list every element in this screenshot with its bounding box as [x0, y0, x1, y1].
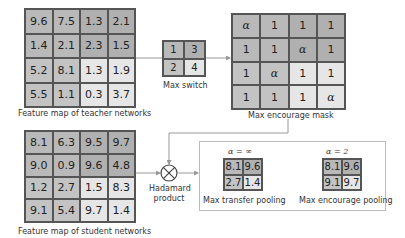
hadamard-label: Hadamard product	[149, 184, 189, 204]
max-switch-grid: 1324	[162, 40, 206, 77]
encourage-pooling-alpha: α = 2	[326, 147, 348, 156]
student-cell: 2.7	[53, 177, 81, 200]
student-feature-map: 8.16.39.59.79.00.99.64.81.22.71.58.39.15…	[24, 130, 136, 223]
student-cell: 4.8	[108, 154, 136, 177]
transfer-pooling-cell: 9.6	[243, 159, 262, 175]
mask-cell: α	[260, 62, 288, 86]
transfer-pooling-cell: 1.4	[243, 175, 262, 191]
teacher-cell: 2.1	[53, 34, 81, 59]
transfer-pooling-cell: 2.7	[224, 175, 243, 191]
student-cell: 5.4	[53, 199, 81, 222]
student-cell: 1.4	[108, 199, 136, 222]
student-cell: 8.1	[25, 131, 53, 154]
teacher-cell: 5.5	[25, 83, 53, 108]
student-cell: 1.5	[80, 177, 108, 200]
teacher-cell: 0.3	[80, 83, 108, 108]
teacher-cell: 3.7	[108, 83, 136, 108]
mask-cell: 1	[289, 62, 317, 86]
mask-cell: α	[232, 14, 260, 38]
mask-cell: 1	[289, 14, 317, 38]
encourage-pooling-cell: 9.1	[323, 175, 342, 191]
teacher-cell: 1.1	[53, 83, 81, 108]
max-encourage-mask: α11111α11α11111α	[231, 13, 346, 110]
student-cell: 9.0	[25, 154, 53, 177]
student-cell: 9.5	[80, 131, 108, 154]
hadamard-product-icon	[161, 165, 177, 181]
max-switch-cell: 3	[184, 41, 205, 59]
mask-cell: α	[289, 38, 317, 62]
max-encourage-pooling-grid: 8.19.69.19.7	[322, 158, 362, 191]
max-switch-cell: 4	[184, 59, 205, 77]
student-cell: 9.6	[80, 154, 108, 177]
transfer-pooling-cell: 8.1	[224, 159, 243, 175]
student-cell: 9.1	[25, 199, 53, 222]
mask-cell: 1	[232, 38, 260, 62]
max-transfer-pooling-label: Max transfer pooling	[203, 196, 286, 205]
transfer-pooling-alpha: α = ∞	[228, 147, 252, 156]
mask-cell: 1	[232, 85, 260, 109]
teacher-cell: 1.9	[108, 58, 136, 83]
mask-cell: 1	[317, 38, 345, 62]
mask-cell: 1	[232, 62, 260, 86]
max-switch-label: Max switch	[163, 81, 208, 90]
max-transfer-pooling-grid: 8.19.62.71.4	[223, 158, 263, 191]
student-cell: 0.9	[53, 154, 81, 177]
mask-cell: 1	[317, 14, 345, 38]
teacher-cell: 8.1	[53, 58, 81, 83]
teacher-cell: 7.5	[53, 9, 81, 34]
teacher-cell: 1.4	[25, 34, 53, 59]
max-switch-cell: 1	[163, 41, 184, 59]
encourage-pooling-cell: 9.6	[342, 159, 361, 175]
encourage-pooling-cell: 8.1	[323, 159, 342, 175]
teacher-cell: 5.2	[25, 58, 53, 83]
student-feature-map-label: Feature map of student networks	[18, 227, 151, 236]
mask-cell: 1	[317, 62, 345, 86]
student-cell: 8.3	[108, 177, 136, 200]
student-cell: 9.7	[108, 131, 136, 154]
pooling-results-box: α = ∞ 8.19.62.71.4 Max transfer pooling …	[199, 141, 386, 211]
teacher-cell: 2.1	[108, 9, 136, 34]
max-switch-cell: 2	[163, 59, 184, 77]
mask-cell: 1	[260, 14, 288, 38]
mask-cell: 1	[260, 38, 288, 62]
hadamard-label-line2: product	[149, 194, 189, 204]
mask-cell: 1	[289, 85, 317, 109]
teacher-cell: 2.3	[80, 34, 108, 59]
max-encourage-mask-label: Max encourage mask	[248, 111, 334, 120]
mask-cell: 1	[260, 85, 288, 109]
max-encourage-pooling-label: Max encourage pooling	[299, 196, 393, 205]
teacher-cell: 1.3	[80, 9, 108, 34]
student-cell: 9.7	[80, 199, 108, 222]
mask-cell: α	[317, 85, 345, 109]
student-cell: 6.3	[53, 131, 81, 154]
student-cell: 1.2	[25, 177, 53, 200]
encourage-pooling-cell: 9.7	[342, 175, 361, 191]
hadamard-label-line1: Hadamard	[149, 184, 189, 194]
teacher-cell: 1.5	[108, 34, 136, 59]
teacher-feature-map-label: Feature map of teacher networks	[18, 109, 151, 118]
teacher-cell: 9.6	[25, 9, 53, 34]
teacher-cell: 1.3	[80, 58, 108, 83]
teacher-feature-map: 9.67.51.32.11.42.12.31.55.28.11.31.95.51…	[24, 8, 136, 108]
